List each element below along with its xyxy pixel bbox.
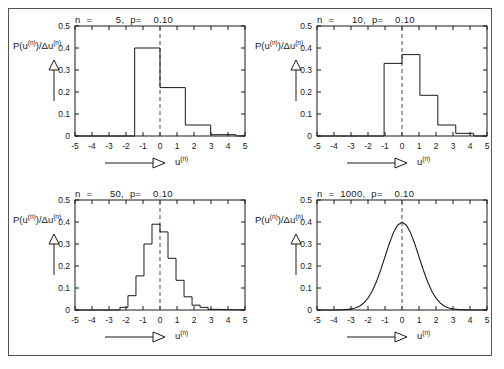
plot-panel-n5: n = 5, p= 0.10 P(u(n))/Δu(n) -5-4-3-2-10… bbox=[9, 9, 251, 183]
svg-text:0.4: 0.4 bbox=[58, 43, 70, 53]
plot-panel-n10: n = 10, p= 0.10 P(u(n))/Δu(n) -5-4-3-2-1… bbox=[251, 9, 493, 183]
svg-text:-4: -4 bbox=[88, 141, 96, 151]
svg-text:0.3: 0.3 bbox=[58, 65, 70, 75]
svg-text:1: 1 bbox=[417, 315, 422, 325]
svg-text:5: 5 bbox=[243, 315, 248, 325]
svg-text:-3: -3 bbox=[105, 315, 113, 325]
svg-text:-1: -1 bbox=[381, 315, 389, 325]
x-axis-label-n1000: u(n) bbox=[417, 329, 430, 341]
x-axis-arrow-n1000 bbox=[347, 331, 409, 343]
svg-text:0: 0 bbox=[307, 305, 312, 315]
svg-text:1: 1 bbox=[175, 141, 180, 151]
plot-panel-n1000: n = 1000, p= 0.10 P(u(n))/Δu(n) -5-4-3-2… bbox=[251, 183, 493, 357]
svg-text:1: 1 bbox=[175, 315, 180, 325]
svg-text:5: 5 bbox=[243, 141, 248, 151]
svg-text:5: 5 bbox=[485, 315, 490, 325]
svg-text:0.1: 0.1 bbox=[300, 109, 312, 119]
svg-text:0: 0 bbox=[400, 141, 405, 151]
svg-text:0.2: 0.2 bbox=[300, 261, 312, 271]
svg-text:0: 0 bbox=[158, 141, 163, 151]
svg-text:-2: -2 bbox=[122, 141, 130, 151]
svg-text:0.4: 0.4 bbox=[300, 217, 312, 227]
svg-text:-5: -5 bbox=[313, 315, 321, 325]
svg-text:0: 0 bbox=[307, 131, 312, 141]
svg-text:4: 4 bbox=[226, 315, 231, 325]
svg-text:-2: -2 bbox=[364, 141, 372, 151]
svg-text:0.5: 0.5 bbox=[300, 21, 312, 31]
svg-text:2: 2 bbox=[192, 141, 197, 151]
plot-panel-n50: n = 50, p= 0.10 P(u(n))/Δu(n) -5-4-3-2-1… bbox=[9, 183, 251, 357]
figure-border: n = 5, p= 0.10 P(u(n))/Δu(n) -5-4-3-2-10… bbox=[8, 8, 492, 356]
svg-text:-3: -3 bbox=[347, 141, 355, 151]
x-axis-arrow-n50 bbox=[105, 331, 167, 343]
svg-text:0.1: 0.1 bbox=[58, 283, 70, 293]
svg-text:-3: -3 bbox=[347, 315, 355, 325]
svg-text:0.1: 0.1 bbox=[300, 283, 312, 293]
svg-text:-1: -1 bbox=[139, 141, 147, 151]
svg-text:4: 4 bbox=[468, 141, 473, 151]
svg-text:0.5: 0.5 bbox=[58, 195, 70, 205]
svg-text:-4: -4 bbox=[88, 315, 96, 325]
x-axis-label-n10: u(n) bbox=[417, 155, 430, 167]
svg-text:5: 5 bbox=[485, 141, 490, 151]
svg-text:4: 4 bbox=[468, 315, 473, 325]
svg-text:0.2: 0.2 bbox=[58, 261, 70, 271]
svg-text:0.1: 0.1 bbox=[58, 109, 70, 119]
svg-text:-5: -5 bbox=[71, 141, 79, 151]
svg-text:0.4: 0.4 bbox=[58, 217, 70, 227]
svg-text:-2: -2 bbox=[364, 315, 372, 325]
svg-text:0.5: 0.5 bbox=[58, 21, 70, 31]
svg-text:-4: -4 bbox=[330, 141, 338, 151]
svg-text:3: 3 bbox=[451, 315, 456, 325]
svg-text:4: 4 bbox=[226, 141, 231, 151]
svg-text:-5: -5 bbox=[71, 315, 79, 325]
svg-text:0: 0 bbox=[65, 305, 70, 315]
x-axis-label-n50: u(n) bbox=[175, 329, 188, 341]
svg-text:-5: -5 bbox=[313, 141, 321, 151]
svg-text:3: 3 bbox=[209, 141, 214, 151]
svg-text:0.2: 0.2 bbox=[58, 87, 70, 97]
svg-text:0.3: 0.3 bbox=[300, 65, 312, 75]
svg-text:1: 1 bbox=[417, 141, 422, 151]
x-axis-label-n5: u(n) bbox=[175, 155, 188, 167]
svg-text:-1: -1 bbox=[139, 315, 147, 325]
svg-text:-2: -2 bbox=[122, 315, 130, 325]
svg-text:0.5: 0.5 bbox=[300, 195, 312, 205]
svg-text:0.2: 0.2 bbox=[300, 87, 312, 97]
svg-text:-4: -4 bbox=[330, 315, 338, 325]
svg-text:3: 3 bbox=[209, 315, 214, 325]
svg-text:0.3: 0.3 bbox=[300, 239, 312, 249]
x-axis-arrow-n10 bbox=[347, 157, 409, 169]
svg-text:0.3: 0.3 bbox=[58, 239, 70, 249]
svg-text:0: 0 bbox=[158, 315, 163, 325]
svg-text:-3: -3 bbox=[105, 141, 113, 151]
svg-text:3: 3 bbox=[451, 141, 456, 151]
svg-text:2: 2 bbox=[192, 315, 197, 325]
svg-text:0: 0 bbox=[65, 131, 70, 141]
svg-text:0: 0 bbox=[400, 315, 405, 325]
svg-text:2: 2 bbox=[434, 141, 439, 151]
svg-text:-1: -1 bbox=[381, 141, 389, 151]
svg-text:2: 2 bbox=[434, 315, 439, 325]
svg-text:0.4: 0.4 bbox=[300, 43, 312, 53]
x-axis-arrow-n5 bbox=[105, 157, 167, 169]
